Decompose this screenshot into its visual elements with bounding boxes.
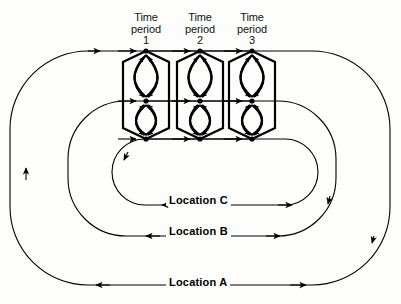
period-column-2 xyxy=(177,51,223,139)
time-period-2-number: 2 xyxy=(170,35,230,47)
time-period-2-line1: Time xyxy=(170,12,230,24)
period-column-1 xyxy=(123,51,169,139)
time-period-label-1: Time period 1 xyxy=(116,12,176,47)
loop-location-b xyxy=(68,101,336,236)
time-period-3-number: 3 xyxy=(222,35,282,47)
time-period-1-number: 1 xyxy=(116,35,176,47)
location-a-label: Location A xyxy=(166,276,230,288)
loop-location-a xyxy=(10,51,390,285)
diagram-canvas: Time period 1 Time period 2 Time period … xyxy=(0,0,401,304)
time-period-label-2: Time period 2 xyxy=(170,12,230,47)
location-c-label: Location C xyxy=(166,194,231,206)
time-period-label-3: Time period 3 xyxy=(222,12,282,47)
location-b-label: Location B xyxy=(166,225,231,237)
time-period-3-line1: Time xyxy=(222,12,282,24)
time-period-1-line1: Time xyxy=(116,12,176,24)
period-column-3 xyxy=(229,51,275,139)
